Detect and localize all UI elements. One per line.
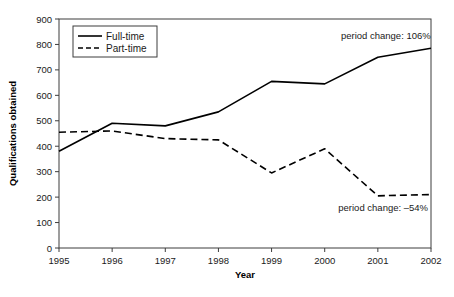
annotation-1: period change: 106%: [341, 30, 431, 41]
x-axis-title: Year: [235, 269, 255, 280]
x-axis-tick-label: 1995: [48, 255, 69, 266]
y-axis-tick-label: 500: [36, 115, 52, 126]
y-axis-tick-label: 800: [36, 39, 52, 50]
y-axis-tick-label: 300: [36, 166, 52, 177]
annotation-2: period change: –54%: [338, 202, 428, 213]
y-axis-tick-label: 600: [36, 90, 52, 101]
x-axis-tick-label: 2000: [314, 255, 335, 266]
x-axis-tick-label: 2002: [420, 255, 441, 266]
legend-label: Full-time: [106, 31, 145, 42]
y-axis-tick-label: 0: [47, 243, 52, 254]
y-axis-tick-label: 200: [36, 192, 52, 203]
y-axis-tick-label: 900: [36, 14, 52, 25]
x-axis-tick-label: 1997: [155, 255, 176, 266]
legend-label: Part-time: [106, 43, 147, 54]
y-axis-tick-label: 100: [36, 217, 52, 228]
x-axis-tick-label: 1998: [208, 255, 229, 266]
y-axis-tick-label: 400: [36, 141, 52, 152]
x-axis-tick-label: 2001: [367, 255, 388, 266]
x-axis-tick-label: 1996: [102, 255, 123, 266]
chart-canvas: 0100200300400500600700800900199519961997…: [0, 0, 454, 297]
y-axis-title: Qualifications obtained: [7, 81, 18, 186]
x-axis-tick-label: 1999: [261, 255, 282, 266]
line-chart: 0100200300400500600700800900199519961997…: [0, 0, 454, 297]
y-axis-tick-label: 700: [36, 64, 52, 75]
